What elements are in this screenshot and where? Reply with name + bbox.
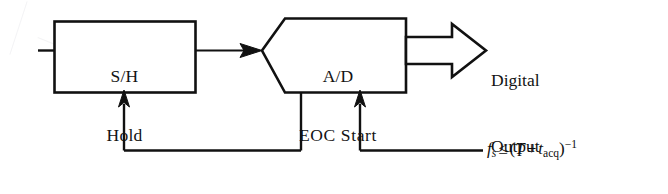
formula-exponent: −1 [565, 138, 577, 151]
formula-term2-subscript: acq [543, 147, 559, 160]
digital-output-label: Digital Output [491, 25, 540, 194]
digital-output-arrow [406, 24, 486, 77]
formula-plus: + [525, 139, 539, 158]
ad-converter-label: A/D EOC Start [268, 28, 408, 185]
formula-relation: ≤ [496, 139, 509, 158]
ad-converter-line1: A/D [268, 67, 408, 87]
sample-hold-line2: Hold [54, 126, 195, 146]
sample-hold-label: S/H Hold [54, 28, 195, 185]
formula-term1: T [515, 139, 524, 158]
digital-output-line1: Digital [491, 69, 540, 91]
ad-converter-line2: EOC Start [268, 126, 408, 146]
sample-hold-line1: S/H [54, 67, 195, 87]
sampling-rate-formula: fs≤(T+tacq)−1 [487, 138, 577, 160]
block-diagram-figure: S/H Hold A/D EOC Start Digital Output fs… [0, 0, 668, 194]
